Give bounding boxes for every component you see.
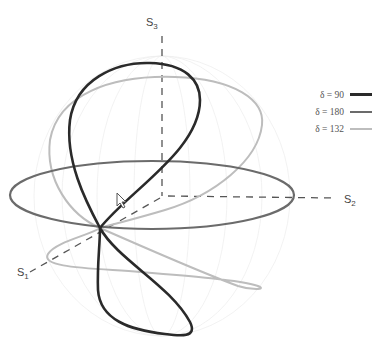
poincare-sphere-diagram <box>0 0 374 350</box>
s3-label-sub: 3 <box>153 22 157 31</box>
legend-item-delta-180: δ = 180 <box>282 103 372 120</box>
legend-swatch <box>350 93 372 96</box>
legend-label: δ = 90 <box>320 90 344 100</box>
s1-label-sub: 1 <box>24 272 28 281</box>
legend-swatch <box>350 111 372 113</box>
mouse-cursor-icon <box>117 193 126 208</box>
legend-item-delta-90: δ = 90 <box>282 86 372 103</box>
s2-axis-label: S2 <box>344 193 356 208</box>
legend-item-delta-132: δ = 132 <box>282 120 372 137</box>
s2-label-sub: 2 <box>351 199 355 208</box>
curve-delta-180 <box>10 161 294 229</box>
s2-axis <box>168 196 335 198</box>
legend: δ = 90 δ = 180 δ = 132 <box>282 86 372 137</box>
legend-label: δ = 180 <box>315 107 344 117</box>
legend-swatch <box>350 128 372 130</box>
curve-delta-90 <box>69 63 200 335</box>
legend-label: δ = 132 <box>315 124 344 134</box>
s3-axis-label: S3 <box>146 16 158 31</box>
s1-axis-label: S1 <box>17 266 29 281</box>
